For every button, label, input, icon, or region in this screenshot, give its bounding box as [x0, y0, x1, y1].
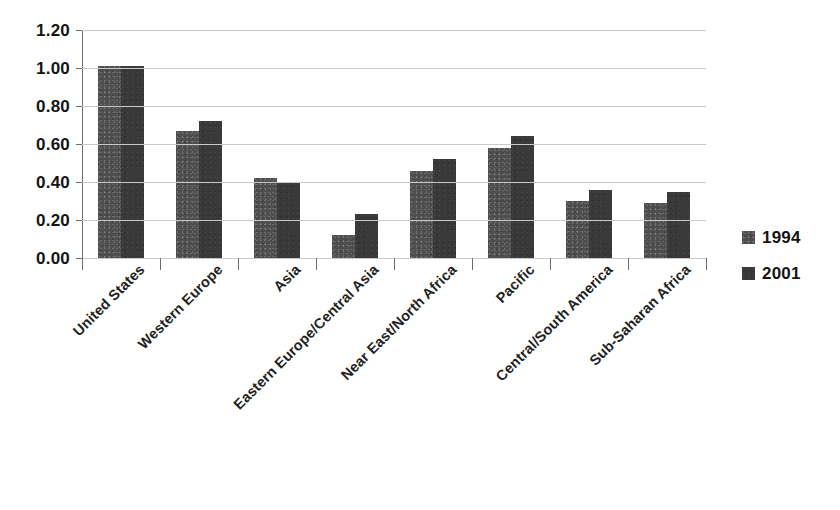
gridline: [82, 30, 706, 31]
bar-1994: [98, 66, 121, 258]
gridline: [82, 68, 706, 69]
x-category-label: Asia: [271, 262, 303, 294]
x-axis-category-labels: United StatesWestern EuropeAsiaEastern E…: [82, 262, 742, 442]
legend-label: 1994: [762, 229, 801, 246]
y-tick-label: 1.20: [36, 22, 70, 39]
bar-2001: [199, 121, 222, 258]
bar-1994: [566, 201, 589, 258]
y-tick-label: 0.80: [36, 98, 70, 115]
legend-swatch-1994: [742, 231, 755, 244]
gridline: [82, 144, 706, 145]
y-tick-mark: [76, 144, 82, 145]
gridline: [82, 182, 706, 183]
legend-item[interactable]: 2001: [742, 264, 832, 282]
bar-1994: [410, 171, 433, 258]
y-tick-mark: [76, 182, 82, 183]
y-tick-label: 0.20: [36, 212, 70, 229]
y-tick-mark: [76, 30, 82, 31]
bar-1994: [644, 203, 667, 258]
y-tick-mark: [76, 106, 82, 107]
y-tick-label: 0.00: [36, 250, 70, 267]
y-tick-label: 0.60: [36, 136, 70, 153]
x-category-label: United States: [71, 262, 148, 339]
bar-1994: [176, 131, 199, 258]
legend-item[interactable]: 1994: [742, 228, 832, 246]
x-category-label: Pacific: [493, 262, 537, 306]
legend-label: 2001: [762, 265, 801, 282]
y-axis: 1.201.000.800.600.400.200.00: [0, 0, 78, 290]
y-tick-label: 0.40: [36, 174, 70, 191]
bar-2001: [511, 136, 534, 258]
x-category-label: Western Europe: [136, 262, 226, 352]
bar-1994: [488, 148, 511, 258]
bar-2001: [667, 192, 690, 259]
gridline: [82, 220, 706, 221]
y-tick-label: 1.00: [36, 60, 70, 77]
gridline: [82, 106, 706, 107]
plot-area: [82, 30, 706, 258]
bar-1994: [332, 235, 355, 258]
bar-chart: 1.201.000.800.600.400.200.00 United Stat…: [0, 0, 840, 510]
bar-2001: [433, 159, 456, 258]
bar-2001: [121, 66, 144, 258]
bar-1994: [254, 178, 277, 258]
y-tick-mark: [76, 68, 82, 69]
y-tick-mark: [76, 220, 82, 221]
chart-legend: 19942001: [742, 228, 832, 300]
legend-swatch-2001: [742, 267, 755, 280]
x-category-label: Eastern Europe/Central Asia: [231, 262, 381, 412]
bar-2001: [589, 190, 612, 258]
